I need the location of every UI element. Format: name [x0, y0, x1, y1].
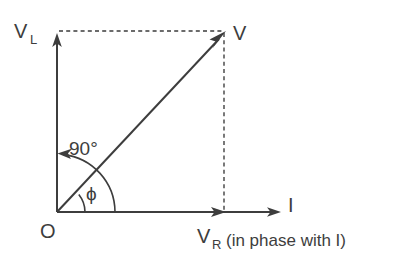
resultant-v-label: V	[233, 22, 247, 44]
right-angle-label: 90°	[69, 138, 98, 159]
vr-label-main: V	[197, 225, 211, 247]
vl-label-main: V	[14, 20, 28, 42]
phasor-diagram-svg: V L V 90° ϕ O I V R (in phase with I)	[0, 0, 418, 264]
phase-angle-label: ϕ	[86, 183, 97, 204]
phase-angle-arc	[79, 194, 85, 212]
phasor-diagram-canvas: V L V 90° ϕ O I V R (in phase with I)	[0, 0, 418, 264]
vr-label-subscript: R	[212, 237, 221, 252]
current-label: I	[288, 194, 294, 216]
phase-note-label: (in phase with I)	[226, 231, 346, 250]
vl-label-subscript: L	[30, 32, 37, 47]
resultant-v-vector-line	[57, 39, 219, 212]
origin-label: O	[40, 220, 56, 242]
